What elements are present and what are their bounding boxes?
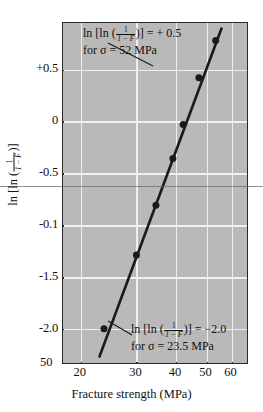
ytick-mark xyxy=(62,277,64,279)
ytick-mark xyxy=(62,329,64,331)
xtick-label: 30 xyxy=(129,366,142,379)
annotation-upper-fraction: 11 − F xyxy=(116,26,135,43)
ytick-mark xyxy=(62,225,64,227)
data-point xyxy=(133,252,140,259)
data-point xyxy=(152,202,159,209)
fraction-numerator: 1 xyxy=(164,322,183,330)
ytick-label: -1.5 xyxy=(39,270,58,283)
fraction-numerator: 1 xyxy=(116,26,135,34)
annotation-upper-tail: )] = + 0.5 xyxy=(136,26,182,40)
annotation-lower-tail: )] = −2.0 xyxy=(184,322,227,336)
weibull-probability-plot-figure: ln [ln (11 − F)] = + 0.5 for σ = 52 MPa … xyxy=(0,0,263,412)
data-point xyxy=(212,37,219,44)
annotation-upper: ln [ln (11 − F)] = + 0.5 for σ = 52 MPa xyxy=(83,26,181,58)
ytick-label: +0.5 xyxy=(36,62,58,75)
ytick-label: -2.0 xyxy=(39,322,58,335)
plot-area xyxy=(62,22,248,364)
data-point xyxy=(195,74,202,81)
xtick-mark xyxy=(136,362,138,364)
y-axis-title-lead: ln [ln ( xyxy=(6,172,20,206)
xtick-label: 50 xyxy=(199,366,212,379)
ytick-mark xyxy=(62,121,64,123)
fraction-numerator: 1 xyxy=(5,152,13,171)
annotation-lower-lead: ln [ln ( xyxy=(131,322,164,336)
y-axis-title: ln [ln (11 − F)] xyxy=(6,85,23,265)
xtick-mark xyxy=(176,362,178,364)
fraction-denominator: 1 − F xyxy=(13,152,22,171)
ytick-label: 0 xyxy=(52,114,58,127)
annotation-upper-lead: ln [ln ( xyxy=(83,26,116,40)
annotation-lower-line2: for σ = 23.5 MPa xyxy=(131,339,226,354)
data-point xyxy=(180,121,187,128)
xtick-label: 20 xyxy=(73,366,86,379)
y-axis-title-fraction: 11 − F xyxy=(5,152,22,171)
annotation-lower-fraction: 11 − F xyxy=(164,322,183,339)
axis-corner-label: 50 xyxy=(40,356,53,369)
y-axis-title-tail: )] xyxy=(6,143,20,151)
xtick-mark xyxy=(207,362,209,364)
x-axis-title: Fracture strength (MPa) xyxy=(0,387,263,402)
annotation-upper-line2: for σ = 52 MPa xyxy=(83,43,181,58)
data-overlay xyxy=(63,23,248,364)
data-point xyxy=(169,155,176,162)
annotation-lower: ln [ln (11 − F)] = −2.0 for σ = 23.5 MPa xyxy=(131,322,226,354)
xtick-mark xyxy=(81,362,83,364)
fraction-denominator: 1 − F xyxy=(116,34,135,43)
xtick-label: 40 xyxy=(169,366,182,379)
xtick-label: 60 xyxy=(224,366,237,379)
fit-line xyxy=(100,29,222,357)
fraction-denominator: 1 − F xyxy=(164,330,183,339)
ytick-mark xyxy=(62,70,64,72)
ytick-label: -0.5 xyxy=(39,166,58,179)
ytick-label: -0.1 xyxy=(39,218,58,231)
xtick-mark xyxy=(232,362,234,364)
data-point xyxy=(101,325,108,332)
leader-line-bottom-annotation xyxy=(108,321,132,335)
ytick-mark xyxy=(62,173,64,175)
